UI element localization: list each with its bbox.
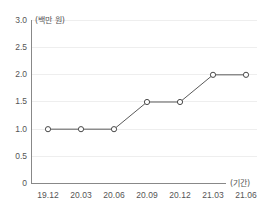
x-tick-label: 19.12 [37, 190, 59, 200]
y-axis-unit-label: (백만 원) [35, 15, 65, 25]
x-tick-label: 20.06 [103, 190, 125, 200]
data-point-marker [243, 72, 248, 77]
x-tick-label: 20.09 [136, 190, 158, 200]
gridlines [32, 21, 258, 157]
y-tick-label: 3.0 [15, 15, 27, 25]
series-markers [45, 72, 248, 132]
x-tick-label: 21.03 [202, 190, 224, 200]
data-point-marker [78, 127, 83, 132]
y-tick-label: 1.5 [15, 96, 27, 106]
y-tick-label: 2.0 [15, 69, 27, 79]
y-tick-label: 0.5 [15, 151, 27, 161]
chart-container: 3.0 2.5 2.0 1.5 1.0 0.5 0 (백만 원) (기간) 19… [0, 0, 270, 212]
x-axis-unit-label: (기간) [230, 178, 250, 188]
x-axis-tick-labels: 19.12 20.03 20.06 20.09 20.12 21.03 21.0… [37, 190, 257, 200]
x-tick-label: 21.06 [235, 190, 257, 200]
data-point-marker [111, 127, 116, 132]
data-point-marker [210, 72, 215, 77]
line-chart: 3.0 2.5 2.0 1.5 1.0 0.5 0 (백만 원) (기간) 19… [0, 0, 270, 212]
data-point-marker [177, 99, 182, 104]
data-point-marker [144, 99, 149, 104]
y-tick-label: 0 [22, 178, 27, 188]
x-tick-label: 20.12 [169, 190, 191, 200]
y-axis-tick-labels: 3.0 2.5 2.0 1.5 1.0 0.5 0 [15, 15, 27, 188]
data-series [45, 72, 248, 132]
y-tick-label: 2.5 [15, 42, 27, 52]
y-tick-label: 1.0 [15, 124, 27, 134]
x-tick-label: 20.03 [70, 190, 92, 200]
data-point-marker [45, 127, 50, 132]
